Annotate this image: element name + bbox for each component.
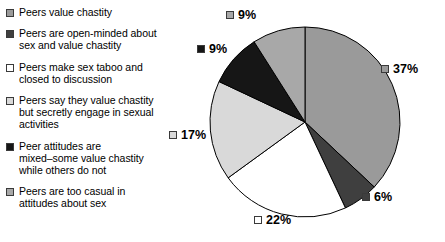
- legend-item: Peer attitudes are mixed–some value chas…: [6, 140, 196, 177]
- callout-value: 6%: [374, 190, 392, 204]
- slice-callout: 9%: [197, 42, 227, 56]
- slice-callout: 37%: [381, 62, 418, 76]
- callout-swatch-icon: [197, 45, 205, 53]
- legend-item-label: Peers say they value chastity but secret…: [19, 94, 154, 131]
- slice-callout: 17%: [169, 128, 206, 142]
- legend-swatch-icon: [6, 30, 14, 38]
- slice-callout: 9%: [226, 8, 256, 22]
- legend-item-label: Peers are too casual in attitudes about …: [19, 185, 125, 209]
- callout-value: 22%: [266, 213, 291, 227]
- callout-value: 17%: [181, 128, 206, 142]
- legend-item-label: Peers value chastity: [19, 6, 112, 18]
- legend-swatch-icon: [6, 188, 14, 196]
- callout-swatch-icon: [169, 131, 177, 139]
- legend-item: Peers make sex taboo and closed to discu…: [6, 61, 196, 85]
- legend-item: Peers are too casual in attitudes about …: [6, 185, 196, 209]
- callout-value: 9%: [209, 42, 227, 56]
- pie-chart: 37% 6% 22% 17% 9% 9%: [196, 0, 445, 242]
- legend-swatch-icon: [6, 9, 14, 17]
- callout-value: 9%: [238, 8, 256, 22]
- callout-swatch-icon: [254, 216, 262, 224]
- legend-swatch-icon: [6, 97, 14, 105]
- slice-callout: 22%: [254, 213, 291, 227]
- legend-item: Peers are open-minded about sex and valu…: [6, 27, 196, 51]
- chart-legend: Peers value chastity Peers are open-mind…: [6, 6, 196, 219]
- legend-item-label: Peers make sex taboo and closed to discu…: [19, 61, 143, 85]
- callout-swatch-icon: [362, 193, 370, 201]
- pie-chart-svg: [196, 0, 445, 242]
- legend-item: Peers value chastity: [6, 6, 196, 18]
- callout-value: 37%: [393, 62, 418, 76]
- legend-item-label: Peers are open-minded about sex and valu…: [19, 27, 157, 51]
- callout-swatch-icon: [226, 11, 234, 19]
- legend-swatch-icon: [6, 143, 14, 151]
- legend-item-label: Peer attitudes are mixed–some value chas…: [19, 140, 144, 177]
- callout-swatch-icon: [381, 65, 389, 73]
- slice-callout: 6%: [362, 190, 392, 204]
- legend-item: Peers say they value chastity but secret…: [6, 94, 196, 131]
- legend-swatch-icon: [6, 64, 14, 72]
